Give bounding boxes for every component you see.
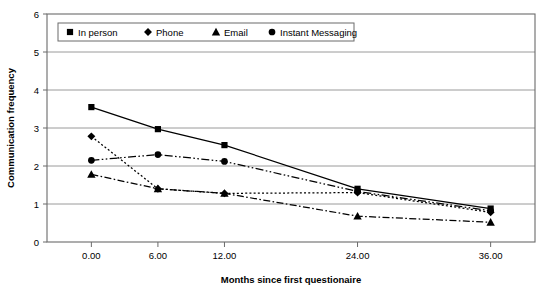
series-line: [91, 107, 490, 208]
y-tick-label: 4: [34, 85, 39, 96]
marker-circle: [155, 151, 162, 158]
series-line: [91, 136, 490, 212]
x-tick-label: 24.00: [346, 250, 370, 261]
x-tick-label: 0.00: [82, 250, 101, 261]
marker-triangle: [486, 218, 494, 226]
x-tick-label: 36.00: [479, 250, 503, 261]
legend-item-instant-messaging[interactable]: Instant Messaging: [269, 27, 357, 38]
chart-container: 01234560.006.0012.0024.0036.00Months sin…: [0, 0, 549, 293]
legend-label: Instant Messaging: [280, 27, 357, 38]
series-group: [87, 104, 495, 226]
marker-diamond: [87, 132, 95, 140]
series-line: [91, 174, 490, 222]
x-axis-title: Months since first questionaire: [221, 274, 361, 285]
y-tick-label: 2: [34, 161, 39, 172]
series-line: [91, 155, 490, 211]
marker-square: [155, 126, 161, 132]
y-axis-title: Communication frequency: [5, 67, 16, 188]
series-in-person: [88, 104, 493, 212]
legend-label: Phone: [156, 27, 183, 38]
x-tick-label: 12.00: [213, 250, 237, 261]
marker-circle: [221, 158, 228, 165]
marker-circle: [88, 157, 95, 164]
marker-triangle: [87, 170, 95, 178]
marker-square: [88, 104, 94, 110]
gridlines: [43, 14, 535, 242]
legend-label: Email: [224, 27, 248, 38]
marker-circle: [354, 188, 361, 195]
legend: In personPhoneEmailInstant Messaging: [58, 23, 357, 41]
x-axis: [91, 242, 490, 247]
marker-circle: [269, 29, 276, 36]
marker-square: [221, 142, 227, 148]
legend-label: In person: [78, 27, 118, 38]
line-chart: 01234560.006.0012.0024.0036.00Months sin…: [0, 0, 549, 293]
y-tick-label: 3: [34, 123, 39, 134]
marker-circle: [487, 207, 494, 214]
y-tick-label: 1: [34, 199, 39, 210]
y-tick-label: 6: [34, 9, 39, 20]
x-tick-label: 6.00: [149, 250, 168, 261]
y-tick-label: 5: [34, 47, 39, 58]
y-tick-label: 0: [34, 237, 39, 248]
series-email: [87, 170, 495, 225]
marker-square: [67, 29, 73, 35]
